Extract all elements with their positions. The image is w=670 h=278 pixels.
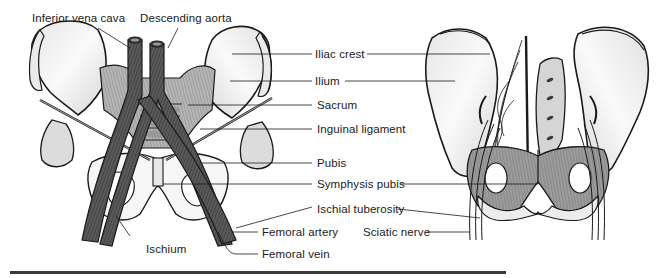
symphysis-pubis-anterior <box>153 158 163 186</box>
label-sciatic-nerve: Sciatic nerve <box>363 226 430 239</box>
label-ischial-tuberosity: Ischial tuberosity <box>317 203 404 216</box>
pelvis-anatomy-figure: Inferior vena cava Descending aorta Ilia… <box>0 0 670 278</box>
label-inferior-vena-cava: Inferior vena cava <box>32 12 125 25</box>
label-femoral-artery: Femoral artery <box>262 226 338 239</box>
label-iliac-crest: Iliac crest <box>315 48 365 61</box>
label-inguinal-ligament: Inguinal ligament <box>317 123 406 136</box>
label-pubis: Pubis <box>317 157 346 170</box>
label-femoral-vein: Femoral vein <box>262 248 330 261</box>
label-sacrum: Sacrum <box>317 99 357 112</box>
posterior-sacrum <box>536 58 565 157</box>
label-ilium: Ilium <box>315 75 340 88</box>
label-descending-aorta: Descending aorta <box>140 12 232 25</box>
label-symphysis-pubis: Symphysis pubis <box>317 178 405 191</box>
label-ischium: Ischium <box>146 243 186 256</box>
bottom-divider-rule <box>10 271 506 274</box>
anterior-pelvis <box>29 21 312 254</box>
